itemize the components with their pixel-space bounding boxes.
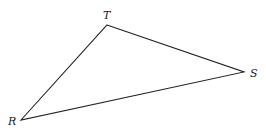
triangle-diagram: T S R — [0, 0, 266, 137]
vertex-label-t: T — [103, 9, 112, 22]
triangle-svg: T S R — [0, 0, 266, 137]
vertex-label-r: R — [7, 115, 16, 128]
vertex-label-s: S — [250, 67, 258, 80]
triangle-rst — [21, 25, 244, 120]
